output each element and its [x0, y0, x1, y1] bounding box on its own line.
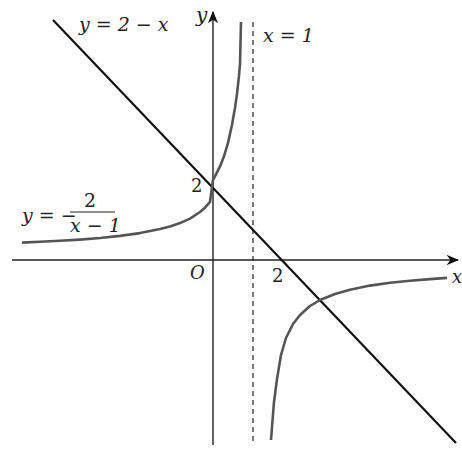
y-axis-label: y — [195, 3, 208, 27]
hyperbola-label-denominator: x − 1 — [70, 214, 121, 236]
hyperbola-right-branch — [271, 278, 447, 440]
x-axis-label: x — [452, 266, 462, 287]
hyperbola-label-lhs: y = − — [21, 204, 77, 226]
line-equation-label: y = 2 − x — [78, 13, 169, 35]
hyperbola-equation-label: y = − 2 x − 1 — [21, 189, 121, 236]
hyperbola-label-numerator: 2 — [84, 189, 96, 211]
asymptote-label: x = 1 — [263, 24, 314, 46]
x-tick-2: 2 — [272, 265, 283, 286]
y-tick-2: 2 — [191, 175, 202, 196]
function-graph: y x O 2 2 y = 2 − x x = 1 y = − 2 x − 1 — [0, 0, 462, 455]
origin-label: O — [190, 262, 205, 283]
